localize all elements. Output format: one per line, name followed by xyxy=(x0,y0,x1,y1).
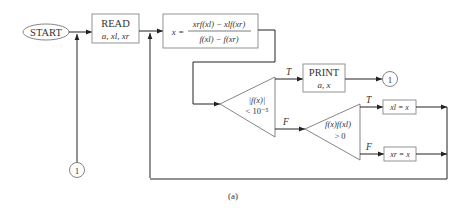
connector-out: 1 xyxy=(383,72,398,87)
connector-in-label: 1 xyxy=(75,166,80,176)
flowchart-canvas: START READ a, xl, xr x = xrf(xl) − xlf(x… xyxy=(0,0,467,213)
figure-caption: (a) xyxy=(228,191,238,201)
edge-return-loop xyxy=(150,107,447,179)
false-label-2: F xyxy=(365,142,372,152)
print-label: PRINT xyxy=(309,67,340,78)
read-node: READ a, xl, xr xyxy=(92,14,139,43)
decision2-line2: > 0 xyxy=(334,131,345,141)
connector-in: 1 xyxy=(70,163,85,178)
assign-left-node: xl = x xyxy=(383,100,416,114)
decision1-line2: < 10⁻⁵ xyxy=(246,106,269,116)
decision2-line1: f(x)f(xl) xyxy=(325,119,351,129)
start-label: START xyxy=(30,27,62,38)
compute-denominator: f(xl) − f(xr) xyxy=(199,34,238,44)
start-node: START xyxy=(23,24,69,40)
decision1-line1: |f(x)| xyxy=(249,95,265,105)
print-node: PRINT a, x xyxy=(303,64,345,92)
connector-out-label: 1 xyxy=(388,75,393,85)
assign-right-node: xr = x xyxy=(384,147,416,161)
false-label-1: F xyxy=(282,117,289,127)
assign-left-label: xl = x xyxy=(389,103,409,112)
compute-lhs: x = xyxy=(171,27,184,37)
decision2-node: f(x)f(xl) > 0 xyxy=(305,104,360,160)
read-label: READ xyxy=(101,18,130,29)
true-label-2: T xyxy=(366,95,372,105)
decision1-node: |f(x)| < 10⁻⁵ xyxy=(220,77,275,137)
assign-right-label: xr = x xyxy=(389,150,410,159)
compute-numerator: xrf(xl) − xlf(xr) xyxy=(192,19,246,29)
read-sublabel: a, xl, xr xyxy=(102,31,130,41)
compute-node: x = xrf(xl) − xlf(xr) f(xl) − f(xr) xyxy=(163,14,258,48)
print-sublabel: a, x xyxy=(318,80,331,90)
true-label-1: T xyxy=(286,67,292,77)
